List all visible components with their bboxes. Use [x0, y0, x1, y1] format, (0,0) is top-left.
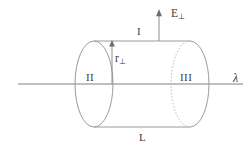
field-arrow [156, 9, 162, 41]
cylinder-diagram-canvas [0, 0, 251, 151]
surface-label-I: I [137, 26, 141, 37]
physics-diagram-figure: E⊥ I r⊥ II III λ L [0, 0, 251, 151]
radius-label-r-perp: r⊥ [115, 53, 126, 66]
field-label-symbol: E [171, 7, 178, 19]
surface-label-III: III [180, 72, 192, 83]
length-label-L: L [139, 132, 146, 143]
surface-label-II: II [86, 72, 94, 83]
radius-label-subscript: ⊥ [119, 57, 126, 66]
field-label-E-perp: E⊥ [171, 8, 185, 21]
field-label-subscript: ⊥ [178, 12, 185, 21]
line-charge-label-lambda: λ [233, 72, 238, 84]
